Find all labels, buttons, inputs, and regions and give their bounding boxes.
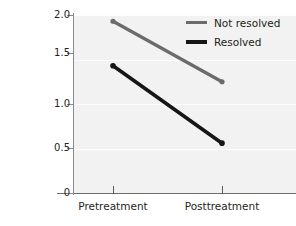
legend-label-not-resolved: Not resolved — [214, 17, 280, 29]
x-tick-mark-pretreatment — [113, 186, 114, 194]
gridline-1-5 — [73, 60, 296, 61]
legend-item-not-resolved: Not resolved — [186, 16, 280, 29]
legend-label-resolved: Resolved — [214, 36, 261, 48]
legend: Not resolved Resolved — [186, 16, 280, 48]
legend-item-resolved: Resolved — [186, 35, 280, 48]
legend-swatch-resolved — [186, 40, 207, 44]
x-tick-mark-posttreatment — [222, 186, 223, 194]
gridline-0-5 — [73, 149, 296, 150]
x-tick-label-pretreatment: Pretreatment — [78, 199, 147, 213]
y-tick-label-1-5: 1.5 — [38, 48, 70, 58]
line-chart-figure: 2.0 1.5 1.0 0.5 0 Mean interpersonal pro… — [0, 0, 296, 226]
x-axis-line — [57, 193, 296, 194]
gridline-1-0 — [73, 104, 296, 105]
x-tick-label-posttreatment: Posttreatment — [185, 199, 260, 213]
legend-swatch-not-resolved — [186, 21, 207, 24]
y-tick-label-1-0: 1.0 — [38, 99, 70, 109]
y-tick-label-2-0: 2.0 — [38, 10, 70, 20]
y-tick-label-0: 0 — [38, 188, 70, 198]
y-tick-label-0-5: 0.5 — [38, 143, 70, 153]
